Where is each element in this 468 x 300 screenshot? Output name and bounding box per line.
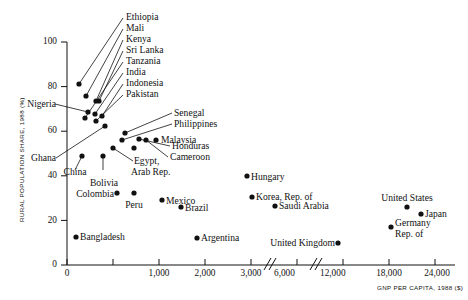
label-kenya: Kenya xyxy=(126,34,151,44)
label-brazil: Brazil xyxy=(185,203,208,213)
point-bolivia xyxy=(100,153,105,158)
point-honduras xyxy=(136,136,141,141)
point-malaysia xyxy=(153,137,158,142)
label-united-states: United States xyxy=(381,193,432,203)
label-united-kingdom: United Kingdom xyxy=(270,238,335,248)
label-hungary: Hungary xyxy=(251,172,285,182)
point-ethiopia xyxy=(76,81,81,86)
point-hungary2 xyxy=(131,145,136,150)
x-tick-12000: 12,000 xyxy=(320,268,346,278)
point-china xyxy=(79,153,84,158)
point-mali xyxy=(83,93,88,98)
y-tick-40: 40 xyxy=(48,170,57,180)
label-argentina: Argentina xyxy=(201,233,239,243)
point-mexico xyxy=(159,197,164,202)
y-tick-60: 60 xyxy=(48,125,57,135)
label-india: India xyxy=(126,67,146,77)
scatter-plot-figure: 100 80 60 40 20 0 0 1,000 2,000 3,000 6,… xyxy=(0,0,468,300)
label-sri-lanka: Sri Lanka xyxy=(126,45,164,55)
y-tick-0: 0 xyxy=(52,259,57,269)
data-points xyxy=(73,81,423,245)
point-united-kingdom xyxy=(335,240,340,245)
label-honduras: Honduras xyxy=(172,141,209,151)
point-united-states xyxy=(404,204,409,209)
label-pakistan: Pakistan xyxy=(126,89,159,99)
x-axis-title: GNP PER CAPITA, 1988 ($) xyxy=(377,284,463,291)
x-tick-24000: 24,000 xyxy=(424,268,450,278)
label-germany-line2: Rep. of xyxy=(395,229,423,239)
point-ghana xyxy=(102,123,107,128)
x-tick-0: 0 xyxy=(65,268,70,278)
label-ethiopia: Ethiopia xyxy=(126,12,159,22)
label-egypt-line1: Egypt, xyxy=(134,156,159,166)
point-germany xyxy=(388,224,393,229)
point-tanzania xyxy=(82,115,87,120)
point-bangladesh xyxy=(73,234,78,239)
label-colombia: Colombia xyxy=(76,189,114,199)
label-peru: Peru xyxy=(125,200,143,210)
point-japan xyxy=(418,211,423,216)
y-axis-ticks xyxy=(61,42,67,265)
point-peru xyxy=(131,190,136,195)
x-tick-3000: 3,000 xyxy=(241,268,262,278)
point-saudi-arabia xyxy=(272,203,277,208)
point-sri-lanka xyxy=(96,98,101,103)
label-germany-line1: Germany xyxy=(395,218,431,228)
x-axis-ticks xyxy=(67,259,435,265)
point-argentina xyxy=(194,235,199,240)
label-bolivia: Bolivia xyxy=(90,178,118,188)
label-indonesia: Indonesia xyxy=(126,78,163,88)
y-tick-100: 100 xyxy=(43,36,57,46)
point-india xyxy=(92,111,97,116)
label-egypt-line2: Arab Rep. xyxy=(131,167,170,177)
plot-canvas xyxy=(0,0,468,300)
x-tick-18000: 18,000 xyxy=(376,268,402,278)
point-colombia xyxy=(114,190,119,195)
x-tick-1000: 1,000 xyxy=(149,268,170,278)
label-cameroon: Cameroon xyxy=(170,152,210,162)
label-bangladesh: Bangladesh xyxy=(80,232,125,242)
label-senegal: Senegal xyxy=(174,108,204,118)
point-senegal xyxy=(122,130,127,135)
label-saudi-arabia: Saudi Arabia xyxy=(279,201,329,211)
point-pakistan xyxy=(93,118,98,123)
label-tanzania: Tanzania xyxy=(126,56,160,66)
label-ghana: Ghana xyxy=(31,153,56,163)
label-philippines: Philippines xyxy=(174,119,217,129)
point-indonesia xyxy=(99,113,104,118)
x-tick-6000: 6,000 xyxy=(274,268,295,278)
point-korea xyxy=(249,194,254,199)
label-nigeria: Nigeria xyxy=(27,99,56,109)
point-philippines xyxy=(119,137,124,142)
label-mali: Mali xyxy=(126,23,144,33)
y-axis-title: RURAL POPULATION SHARE, 1988 (%) xyxy=(18,97,25,222)
y-tick-20: 20 xyxy=(48,215,57,225)
label-china: China xyxy=(64,167,87,177)
y-tick-80: 80 xyxy=(48,81,57,91)
x-tick-2000: 2,000 xyxy=(195,268,216,278)
point-egypt xyxy=(110,145,115,150)
point-nigeria xyxy=(85,109,90,114)
point-cameroon xyxy=(143,137,148,142)
point-hungary xyxy=(244,173,249,178)
